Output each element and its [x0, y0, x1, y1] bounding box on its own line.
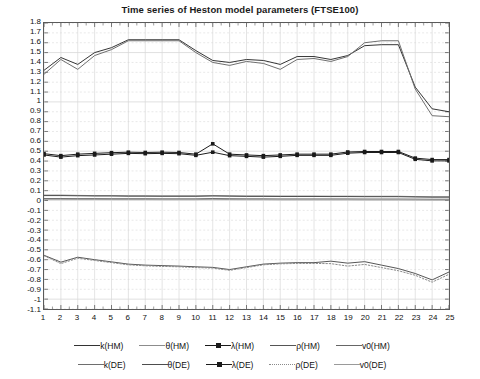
y-tick-label: -0.6	[3, 256, 41, 264]
legend-line-swatch	[139, 340, 165, 351]
x-tick-label: 18	[322, 313, 340, 322]
legend-label: k(DE)	[104, 360, 142, 370]
y-tick-label: 0.4	[3, 157, 41, 165]
x-tick-label: 19	[339, 313, 357, 322]
y-axis-tick-labels: 1.81.71.61.51.41.31.21.110.90.80.70.60.5…	[0, 22, 41, 310]
legend-line-swatch	[270, 340, 296, 351]
x-tick-label: 3	[68, 313, 86, 322]
y-tick-label: -0.9	[3, 286, 41, 294]
x-tick-label: 12	[221, 313, 239, 322]
y-tick-label: 0.2	[3, 177, 41, 185]
legend-line-swatch	[205, 340, 231, 351]
y-tick-label: 1	[3, 97, 41, 105]
x-tick-label: 6	[119, 313, 137, 322]
y-tick-label: 1.5	[3, 48, 41, 56]
x-tick-label: 24	[424, 313, 442, 322]
y-tick-label: 0.9	[3, 107, 41, 115]
legend-entry[interactable]: ρ(DE)	[269, 355, 333, 374]
legend-entry[interactable]: ρ(HM)	[270, 336, 336, 355]
y-tick-label: -0.4	[3, 236, 41, 244]
legend-line-swatch	[269, 359, 295, 370]
y-tick-label: -0.5	[3, 246, 41, 254]
x-tick-label: 4	[85, 313, 103, 322]
chart-legend: k(HM)θ(HM)λ(HM)ρ(HM)v0(HM) k(DE)θ(DE)λ(D…	[0, 336, 480, 376]
y-tick-label: 1.2	[3, 78, 41, 86]
x-axis-tick-labels: 1234567891011121314151617181920212223242…	[43, 313, 450, 327]
y-tick-label: 0.8	[3, 117, 41, 125]
legend-entry[interactable]: λ(HM)	[205, 336, 270, 355]
data-series-lines	[44, 23, 449, 309]
y-tick-label: -0.3	[3, 227, 41, 235]
x-tick-label: 22	[390, 313, 408, 322]
y-tick-label: 0.1	[3, 187, 41, 195]
legend-row-de: k(DE)θ(DE)λ(DE)ρ(DE)v0(DE)	[0, 355, 480, 374]
x-tick-label: 21	[373, 313, 391, 322]
y-tick-label: -0.8	[3, 276, 41, 284]
y-tick-label: -0.7	[3, 266, 41, 274]
y-tick-label: 0	[3, 197, 41, 205]
legend-line-swatch	[206, 359, 232, 370]
x-tick-label: 7	[136, 313, 154, 322]
legend-label: λ(DE)	[232, 360, 270, 370]
legend-label: ρ(HM)	[296, 341, 336, 351]
y-tick-label: 1.7	[3, 28, 41, 36]
x-tick-label: 8	[153, 313, 171, 322]
x-tick-label: 5	[102, 313, 120, 322]
y-tick-label: 1.6	[3, 38, 41, 46]
legend-label: λ(HM)	[231, 341, 270, 351]
x-tick-label: 11	[204, 313, 222, 322]
y-tick-label: 1.1	[3, 88, 41, 96]
legend-line-swatch	[74, 340, 100, 351]
legend-label: θ(DE)	[168, 360, 206, 370]
legend-row-hm: k(HM)θ(HM)λ(HM)ρ(HM)v0(HM)	[0, 336, 480, 355]
y-tick-label: 0.6	[3, 137, 41, 145]
y-tick-label: -0.2	[3, 217, 41, 225]
legend-entry[interactable]: k(HM)	[74, 336, 139, 355]
x-tick-label: 20	[356, 313, 374, 322]
x-tick-label: 15	[271, 313, 289, 322]
x-tick-label: 23	[407, 313, 425, 322]
legend-line-swatch	[142, 359, 168, 370]
x-tick-label: 1	[34, 313, 52, 322]
legend-line-swatch	[336, 340, 362, 351]
legend-entry[interactable]: λ(DE)	[206, 355, 270, 374]
plot-area	[43, 22, 450, 310]
legend-label: k(HM)	[100, 341, 139, 351]
y-tick-label: 0.5	[3, 147, 41, 155]
legend-label: ρ(DE)	[295, 360, 333, 370]
x-tick-label: 10	[187, 313, 205, 322]
legend-entry[interactable]: θ(DE)	[142, 355, 206, 374]
legend-label: v0(DE)	[360, 360, 402, 370]
legend-label: v0(HM)	[362, 341, 406, 351]
x-tick-label: 17	[305, 313, 323, 322]
chart-figure: Time series of Heston model parameters (…	[0, 0, 480, 379]
y-tick-label: 0.7	[3, 127, 41, 135]
y-tick-label: 1.4	[3, 58, 41, 66]
x-tick-label: 16	[288, 313, 306, 322]
legend-label: θ(HM)	[165, 341, 205, 351]
x-tick-label: 9	[170, 313, 188, 322]
legend-line-swatch	[334, 359, 360, 370]
y-tick-label: -0.1	[3, 207, 41, 215]
x-tick-label: 13	[238, 313, 256, 322]
legend-entry[interactable]: k(DE)	[78, 355, 142, 374]
legend-entry[interactable]: θ(HM)	[139, 336, 205, 355]
legend-entry[interactable]: v0(HM)	[336, 336, 406, 355]
y-tick-label: 1.3	[3, 68, 41, 76]
x-tick-label: 14	[254, 313, 272, 322]
y-tick-label: -1	[3, 296, 41, 304]
legend-entry[interactable]: v0(DE)	[334, 355, 402, 374]
chart-title: Time series of Heston model parameters (…	[0, 4, 480, 15]
y-tick-label: 1.8	[3, 18, 41, 26]
x-tick-label: 25	[441, 313, 459, 322]
legend-line-swatch	[78, 359, 104, 370]
y-tick-label: 0.3	[3, 167, 41, 175]
x-tick-label: 2	[51, 313, 69, 322]
